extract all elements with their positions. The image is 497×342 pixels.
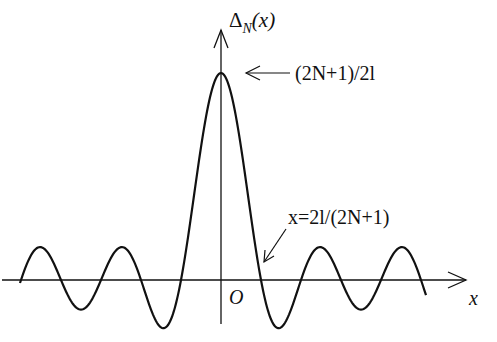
kernel-curve — [20, 73, 426, 328]
peak-arrow-icon — [246, 66, 290, 80]
y-axis-label: ΔN(x) — [229, 8, 275, 36]
diagram-canvas: ΔN(x) (2N+1)/2l x=2l/(2N+1) O x — [0, 0, 497, 342]
zero-arrow-icon — [264, 229, 286, 262]
x-axis-label: x — [468, 287, 478, 309]
peak-annotation: (2N+1)/2l — [295, 62, 376, 85]
origin-label: O — [229, 286, 243, 308]
zero-annotation: x=2l/(2N+1) — [288, 206, 389, 229]
